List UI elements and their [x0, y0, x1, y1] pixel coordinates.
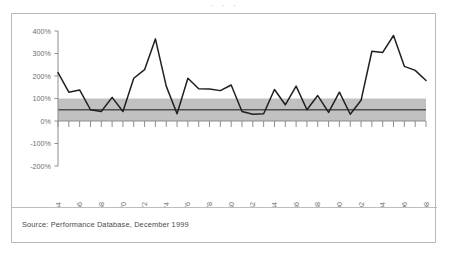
y-axis-tick-label: 0% [41, 117, 52, 126]
figure-frame: -200%-100%0%100%200%300%400% 19641966196… [11, 13, 436, 243]
source-divider [12, 207, 437, 208]
y-axis-tick-label: 400% [33, 27, 52, 36]
line-chart: -200%-100%0%100%200%300%400% 19641966196… [12, 14, 437, 208]
y-axis-tick-label: 100% [33, 94, 52, 103]
chart-plot-area: -200%-100%0%100%200%300%400% 19641966196… [12, 14, 437, 208]
y-axis-labels-group: -200%-100%0%100%200%300%400% [30, 27, 51, 171]
y-axis-tick-label: 300% [33, 49, 52, 58]
y-axis-tick-label: -200% [30, 162, 51, 171]
y-axis-tick-label: -100% [30, 139, 51, 148]
cut-off-title-fragment: · · · [0, 0, 449, 11]
source-note: Source: Performance Database, December 1… [22, 220, 189, 229]
y-axis-tick-label: 200% [33, 72, 52, 81]
